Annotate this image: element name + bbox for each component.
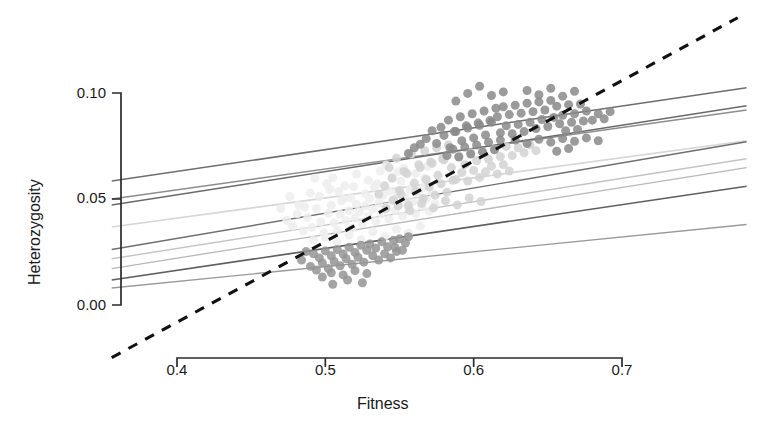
x-tick-label-0-7: 0.7 [572, 362, 672, 377]
data-point [416, 222, 425, 231]
data-point [505, 167, 514, 176]
y-tick-label-0-00: 0.00 [40, 297, 106, 312]
data-point [429, 203, 438, 212]
data-point [392, 154, 401, 163]
data-point [307, 223, 316, 232]
data-point [534, 90, 543, 99]
data-point [404, 149, 413, 158]
data-point [426, 157, 435, 166]
data-point [523, 99, 532, 108]
data-point [399, 167, 408, 176]
data-point [312, 266, 321, 275]
data-point [428, 126, 437, 135]
scatter-plot-figure: 0.10 0.05 0.00 0.4 0.5 0.6 0.7 Heterozyg… [0, 0, 778, 434]
data-point [293, 209, 302, 218]
data-point [457, 168, 466, 177]
data-point [385, 163, 394, 172]
data-point [468, 109, 477, 118]
data-point [410, 179, 419, 188]
data-point [520, 148, 529, 157]
data-point [477, 197, 486, 206]
data-point [444, 116, 453, 125]
data-point [351, 248, 360, 257]
data-point [349, 182, 358, 191]
data-point [358, 278, 367, 287]
data-point [361, 189, 370, 198]
data-point [343, 275, 352, 284]
data-point [523, 139, 532, 148]
data-point [334, 187, 343, 196]
x-tick-label-0-5: 0.5 [275, 362, 375, 377]
data-point [405, 206, 414, 215]
x-tick-label-0-4: 0.4 [127, 362, 227, 377]
data-point [493, 169, 502, 178]
one-to-one-dashed-reference-line [112, 18, 738, 358]
data-point [352, 169, 361, 178]
data-point [493, 112, 502, 121]
data-point [388, 174, 397, 183]
data-point [374, 190, 383, 199]
data-point [505, 110, 514, 119]
x-axis-line [177, 358, 622, 367]
data-point [417, 199, 426, 208]
data-point [385, 215, 394, 224]
data-point [508, 151, 517, 160]
data-point [359, 258, 368, 267]
data-point [437, 123, 446, 132]
data-point [364, 176, 373, 185]
data-point [463, 89, 472, 98]
data-point [570, 87, 579, 96]
y-tick-label-0-05: 0.05 [40, 190, 106, 205]
data-point [309, 236, 318, 245]
data-point [327, 201, 336, 210]
data-point [558, 134, 567, 143]
data-point [312, 204, 321, 213]
data-point [447, 163, 456, 172]
data-point [392, 225, 401, 234]
data-point [327, 268, 336, 277]
data-point [487, 91, 496, 100]
y-tick-label-0-10: 0.10 [40, 85, 106, 100]
data-point [440, 131, 449, 140]
data-point [328, 280, 337, 289]
data-point [345, 206, 354, 215]
data-point [462, 121, 471, 130]
data-point [336, 261, 345, 270]
data-point [396, 176, 405, 185]
data-point [460, 143, 469, 152]
data-point [469, 166, 478, 175]
data-point [315, 192, 324, 201]
data-point [294, 200, 303, 209]
data-point [285, 192, 294, 201]
data-point [310, 174, 319, 183]
y-axis-line [112, 93, 121, 305]
data-point [339, 250, 348, 259]
data-point [546, 138, 555, 147]
data-point [582, 107, 591, 116]
data-point [543, 122, 552, 131]
data-point [333, 226, 342, 235]
series-low-fitness-light [276, 161, 439, 247]
data-point [380, 181, 389, 190]
data-point [484, 138, 493, 147]
data-point [570, 109, 579, 118]
data-point [324, 209, 333, 218]
data-point [437, 179, 446, 188]
x-axis-title: Fitness [357, 396, 409, 412]
data-point [321, 233, 330, 242]
data-point [454, 153, 463, 162]
data-point [345, 231, 354, 240]
data-point [299, 226, 308, 235]
data-point [540, 105, 549, 114]
data-point [474, 119, 483, 128]
data-point [346, 193, 355, 202]
data-point [499, 87, 508, 96]
data-point [564, 144, 573, 153]
y-axis-title: Heterozygosity [27, 179, 43, 285]
data-point [318, 273, 327, 282]
data-point [398, 212, 407, 221]
data-point [529, 107, 538, 116]
data-point [567, 118, 576, 127]
x-tick-label-0-6: 0.6 [424, 362, 524, 377]
axes-group [112, 93, 622, 367]
